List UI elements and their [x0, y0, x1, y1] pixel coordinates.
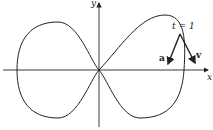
velocity-vector: [180, 34, 195, 63]
point-label: t = 1: [172, 21, 195, 31]
x-axis-label: x: [207, 72, 212, 82]
acceleration-vector: [168, 34, 180, 64]
figure-eight-diagram: x y t = 1 a v: [0, 0, 213, 130]
y-axis-label: y: [90, 0, 97, 8]
figure-eight-curve: [17, 15, 185, 118]
acceleration-label: a: [159, 53, 165, 63]
velocity-label: v: [195, 50, 202, 60]
